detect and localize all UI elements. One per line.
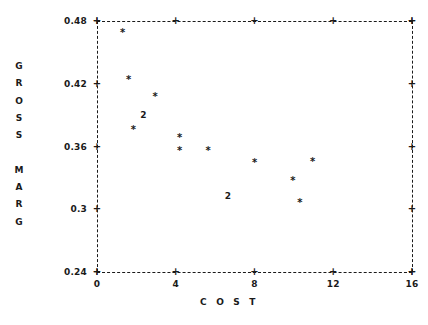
ytick-label-2: 0.36	[35, 143, 87, 152]
data-point-1: *	[124, 75, 134, 85]
xtick-label-0: 0	[81, 280, 113, 289]
data-point-overlap-3: 2	[138, 111, 148, 120]
data-point-2: *	[150, 92, 160, 102]
ytick-label-1: 0.42	[35, 80, 87, 89]
yaxis-title-letter-1: R	[12, 79, 26, 88]
yaxis-title-letter-6: M	[12, 166, 26, 175]
ytick-left-2: +	[93, 142, 102, 152]
data-point-4: *	[128, 125, 138, 135]
ytick-left-4: +	[93, 267, 102, 277]
xtick-top-1: +	[171, 16, 180, 26]
yaxis-title-letter-0: G	[12, 62, 26, 71]
ytick-left-0: +	[93, 16, 102, 26]
scatter-plot: ++++++++++++++++++++0.480.420.360.30.240…	[0, 0, 428, 325]
xtick-label-3: 12	[317, 280, 349, 289]
yaxis-title-letter-7: A	[12, 183, 26, 192]
ytick-right-3: +	[408, 204, 417, 214]
xtick-label-4: 16	[396, 280, 428, 289]
yaxis-title-letter-3: S	[12, 114, 26, 123]
data-point-6: *	[175, 146, 185, 156]
data-point-5: *	[175, 133, 185, 143]
ytick-left-1: +	[93, 79, 102, 89]
ytick-right-1: +	[408, 79, 417, 89]
ytick-label-4: 0.24	[35, 268, 87, 277]
yaxis-title-letter-8: R	[12, 200, 26, 209]
data-point-7: *	[203, 146, 213, 156]
data-point-12: *	[295, 198, 305, 208]
ytick-label-0: 0.48	[35, 17, 87, 26]
ytick-right-4: +	[408, 267, 417, 277]
xaxis-title: C O S T	[200, 298, 259, 307]
yaxis-title-letter-2: O	[12, 97, 26, 106]
data-point-0: *	[118, 28, 128, 38]
xtick-label-2: 8	[239, 280, 271, 289]
ytick-label-3: 0.3	[35, 205, 87, 214]
xtick-bottom-1: +	[171, 267, 180, 277]
yaxis-title-letter-4: S	[12, 131, 26, 140]
xtick-top-2: +	[250, 16, 259, 26]
ytick-right-0: +	[408, 16, 417, 26]
ytick-right-2: +	[408, 142, 417, 152]
data-point-9: *	[308, 157, 318, 167]
xtick-top-3: +	[329, 16, 338, 26]
data-point-overlap-11: 2	[223, 192, 233, 201]
xtick-bottom-3: +	[329, 267, 338, 277]
data-point-10: *	[288, 176, 298, 186]
yaxis-title-letter-9: G	[12, 218, 26, 227]
xtick-bottom-2: +	[250, 267, 259, 277]
ytick-left-3: +	[93, 204, 102, 214]
data-point-8: *	[250, 158, 260, 168]
xtick-label-1: 4	[160, 280, 192, 289]
